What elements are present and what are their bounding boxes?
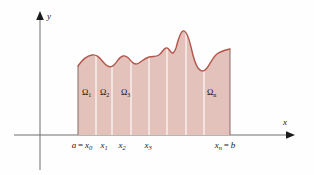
x-tick-x1: x1 xyxy=(99,140,107,151)
x-axis-tick-labels-group: a = x0x1x2x3xn = b xyxy=(72,140,236,151)
shaded-region-under-curve xyxy=(78,31,230,135)
x-axis-label: x xyxy=(282,117,287,127)
x-tick-a-equals-x0: a = x0 xyxy=(72,140,93,151)
x-tick-xn-equals-b: xn = b xyxy=(214,140,236,151)
riemann-partition-figure: y x Ω1Ω2Ω3Ωn a = x0x1x2x3xn = b xyxy=(0,0,314,175)
figure-canvas: y x Ω1Ω2Ω3Ωn a = x0x1x2x3xn = b xyxy=(0,0,314,175)
x-tick-x3: x3 xyxy=(143,140,152,151)
y-axis-label: y xyxy=(46,11,51,21)
y-axis-arrowhead xyxy=(36,11,44,20)
x-axis-arrowhead xyxy=(286,131,295,139)
x-tick-x2: x2 xyxy=(117,140,126,151)
